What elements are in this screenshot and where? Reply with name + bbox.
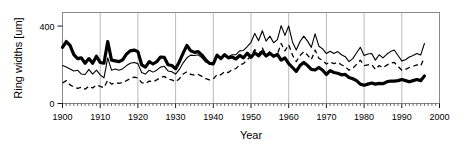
x-tick-label: 1940 bbox=[203, 112, 223, 122]
chart-figure: 1900191019201930194019501960197019801990… bbox=[0, 0, 467, 144]
x-axis-title: Year bbox=[240, 129, 263, 141]
x-tick-label: 2000 bbox=[429, 112, 449, 122]
chart-background bbox=[0, 0, 467, 144]
x-tick-label: 1950 bbox=[241, 112, 261, 122]
x-tick-label: 1960 bbox=[279, 112, 299, 122]
y-axis-title: Ring widths [um] bbox=[12, 17, 24, 98]
x-tick-label: 1900 bbox=[52, 112, 72, 122]
x-tick-label: 1910 bbox=[90, 112, 110, 122]
x-tick-label: 1920 bbox=[128, 112, 148, 122]
y-tick-label: 0 bbox=[49, 99, 54, 109]
x-tick-label: 1990 bbox=[392, 112, 412, 122]
x-tick-label: 1980 bbox=[354, 112, 374, 122]
x-tick-label: 1930 bbox=[166, 112, 186, 122]
x-tick-label: 1970 bbox=[316, 112, 336, 122]
ring-widths-line-chart: 1900191019201930194019501960197019801990… bbox=[0, 0, 467, 144]
y-tick-label: 400 bbox=[39, 22, 54, 32]
